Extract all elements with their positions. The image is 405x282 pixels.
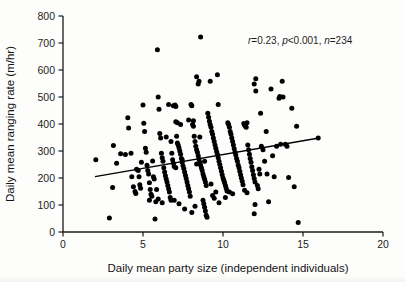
data-point <box>215 72 220 77</box>
data-point <box>197 79 202 84</box>
data-point <box>245 143 250 148</box>
data-point <box>216 102 221 107</box>
data-point <box>157 131 162 136</box>
data-point <box>169 151 174 156</box>
data-point <box>266 199 271 204</box>
data-point <box>193 204 198 209</box>
data-point <box>153 217 158 222</box>
data-point <box>177 201 182 206</box>
data-point <box>174 134 179 139</box>
x-tick-label: 15 <box>297 238 309 250</box>
y-tick-label: 0 <box>49 226 55 238</box>
y-tick-label: 800 <box>37 10 55 22</box>
data-point <box>194 74 199 79</box>
data-point <box>205 215 210 220</box>
data-point <box>257 171 262 176</box>
data-point <box>241 182 246 187</box>
data-point <box>217 200 222 205</box>
data-point <box>189 103 194 108</box>
data-point <box>157 107 162 112</box>
data-point <box>126 126 131 131</box>
data-point <box>189 210 194 215</box>
data-point <box>281 95 286 100</box>
data-point <box>142 129 147 134</box>
data-point <box>265 171 270 176</box>
data-point <box>141 103 146 108</box>
data-point <box>191 124 196 129</box>
data-point <box>247 152 252 157</box>
data-point <box>129 174 134 179</box>
data-point <box>262 159 267 164</box>
data-point <box>147 198 152 203</box>
data-point <box>131 184 136 189</box>
scatter-plot: 0100200300400500600700800 05101520 r=0.2… <box>0 0 405 282</box>
y-tick-label: 500 <box>37 91 55 103</box>
data-point <box>178 122 183 127</box>
data-point <box>156 95 161 100</box>
data-point <box>166 102 171 107</box>
data-point <box>197 134 202 139</box>
data-point <box>250 168 255 173</box>
data-point <box>164 134 169 139</box>
data-point <box>138 186 143 191</box>
data-point <box>270 153 275 158</box>
data-point <box>264 129 269 134</box>
data-point <box>253 76 258 81</box>
data-point <box>152 177 157 182</box>
annotation-segment: =0.23, <box>251 35 282 46</box>
data-point <box>167 190 172 195</box>
data-point <box>272 174 277 179</box>
y-tick-label: 700 <box>37 37 55 49</box>
x-tick-label: 20 <box>377 238 389 250</box>
y-tick-label: 200 <box>37 172 55 184</box>
data-point <box>230 191 235 196</box>
data-point <box>169 139 174 144</box>
data-point <box>172 198 177 203</box>
data-point <box>187 190 192 195</box>
data-point <box>253 202 258 207</box>
data-point <box>155 47 160 52</box>
data-point <box>292 184 297 189</box>
data-point <box>188 194 193 199</box>
data-point <box>245 190 250 195</box>
data-point <box>158 136 163 141</box>
data-point <box>296 220 301 225</box>
data-point <box>245 120 250 125</box>
data-point <box>110 185 115 190</box>
data-point <box>294 124 299 129</box>
data-point <box>111 143 116 148</box>
data-point <box>258 111 263 116</box>
data-point <box>178 152 183 157</box>
y-tick-label: 600 <box>37 64 55 76</box>
data-point <box>171 103 176 108</box>
data-point <box>252 211 257 216</box>
data-point <box>193 139 198 144</box>
data-point <box>173 165 178 170</box>
data-point <box>147 180 152 185</box>
data-point <box>280 79 285 84</box>
data-point <box>249 160 254 165</box>
data-point <box>182 207 187 212</box>
data-point <box>118 151 123 156</box>
y-axis-title: Daily mean ranging rate (m/hr) <box>4 46 16 202</box>
data-point <box>93 157 98 162</box>
x-tick-label: 5 <box>140 238 146 250</box>
stats-annotation: r=0.23, p<0.001, n=234 <box>248 35 353 46</box>
data-point <box>257 167 262 172</box>
data-point <box>114 161 119 166</box>
data-point <box>286 175 291 180</box>
data-point <box>212 196 217 201</box>
data-point <box>289 106 294 111</box>
annotation-segment: =234 <box>330 35 353 46</box>
data-point <box>150 158 155 163</box>
data-point <box>198 35 203 40</box>
data-point <box>154 187 159 192</box>
data-point <box>141 121 146 126</box>
data-point <box>209 125 214 130</box>
data-point <box>223 195 228 200</box>
data-point <box>252 82 257 87</box>
data-point <box>137 174 142 179</box>
x-tick-label: 0 <box>60 238 66 250</box>
data-point <box>125 115 130 120</box>
data-point <box>160 200 165 205</box>
